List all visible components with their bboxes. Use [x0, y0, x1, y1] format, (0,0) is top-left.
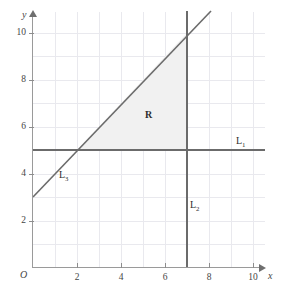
x-tick-label-8: 8	[207, 273, 212, 283]
x-tick-label-2: 2	[75, 273, 80, 283]
x-tick-4	[121, 263, 122, 268]
graph-figure: 2 4 6 8 10 2 4 6 8 10 y x O L1 L2 L3 R	[0, 0, 283, 296]
line-label-L1-sub: 1	[242, 141, 245, 148]
y-tick-10	[29, 33, 34, 34]
y-tick-label-10: 10	[8, 28, 26, 38]
x-tick-10	[253, 263, 254, 268]
y-tick-4	[29, 174, 34, 175]
y-axis-label: y	[22, 10, 26, 20]
y-tick-label-6: 6	[10, 122, 26, 132]
x-tick-label-10: 10	[248, 273, 258, 283]
y-axis-line	[32, 16, 33, 268]
x-tick-label-6: 6	[163, 273, 168, 283]
line-label-L2: L2	[190, 200, 200, 213]
x-tick-6	[165, 263, 166, 268]
x-tick-2	[77, 263, 78, 268]
y-tick-label-8: 8	[10, 75, 26, 85]
y-tick-label-4: 4	[10, 169, 26, 179]
y-tick-label-2: 2	[10, 216, 26, 226]
y-tick-2	[29, 221, 34, 222]
line-label-L3: L3	[59, 170, 69, 183]
line-L1	[33, 149, 265, 151]
y-axis-arrow-icon	[29, 10, 37, 17]
x-axis-label: x	[268, 271, 272, 281]
region-label-R: R	[145, 110, 152, 120]
y-tick-6	[29, 127, 34, 128]
line-label-L2-sub: 2	[196, 205, 199, 212]
x-tick-8	[209, 263, 210, 268]
line-label-L3-sub: 3	[65, 175, 68, 182]
origin-label: O	[20, 270, 27, 280]
line-L2	[186, 11, 188, 268]
x-tick-label-4: 4	[119, 273, 124, 283]
x-axis-line	[33, 267, 260, 268]
line-label-L1: L1	[236, 136, 246, 149]
x-axis-arrow-icon	[259, 264, 266, 272]
y-tick-8	[29, 80, 34, 81]
